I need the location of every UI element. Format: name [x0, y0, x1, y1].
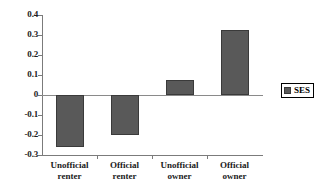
x-axis-label-line1: Unofficial: [51, 160, 89, 170]
x-axis-label-line2: renter: [42, 171, 97, 182]
y-axis-tick: [38, 155, 42, 156]
x-axis-label-line2: owner: [207, 171, 262, 182]
y-axis-tick-label: 0.4: [27, 10, 38, 19]
x-axis-tick: [97, 155, 98, 159]
bar: [56, 95, 84, 147]
y-axis-tick: [38, 115, 42, 116]
x-axis-label-line1: Official: [110, 160, 139, 170]
x-axis-label-line1: Official: [220, 160, 249, 170]
x-axis-label: Officialrenter: [97, 160, 152, 182]
y-axis-tick-label: -0.3: [25, 150, 38, 159]
y-axis-tick: [38, 75, 42, 76]
y-axis-tick-label: 0.3: [27, 30, 38, 39]
y-axis-tick-label: 0.2: [27, 50, 38, 59]
x-axis-label: Unofficialrenter: [42, 160, 97, 182]
legend-swatch-ses: [284, 87, 291, 94]
x-axis-tick: [152, 155, 153, 159]
x-axis-tick: [207, 155, 208, 159]
bar-chart-figure: 0.40.30.20.10-0.1-0.2-0.3 Unofficialrent…: [0, 0, 327, 193]
legend: SES: [281, 83, 314, 98]
legend-label-ses: SES: [294, 86, 310, 95]
y-axis-line: [42, 15, 43, 156]
x-axis-label: Officialowner: [207, 160, 262, 182]
x-axis-label-line2: renter: [97, 171, 152, 182]
y-axis-tick: [38, 55, 42, 56]
x-axis-label-line2: owner: [152, 171, 207, 182]
y-axis-tick: [38, 135, 42, 136]
y-axis-tick-label: 0: [34, 90, 38, 99]
bar: [221, 30, 249, 95]
y-axis-tick: [38, 35, 42, 36]
y-axis-tick-label: -0.1: [25, 110, 38, 119]
y-axis-tick: [38, 15, 42, 16]
bar: [166, 80, 194, 95]
x-axis-label-line1: Unofficial: [161, 160, 199, 170]
y-axis-tick: [38, 95, 42, 96]
y-axis-tick-label: -0.2: [25, 130, 38, 139]
y-axis-tick-label: 0.1: [27, 70, 38, 79]
bar: [111, 95, 139, 135]
x-axis-label: Unofficialowner: [152, 160, 207, 182]
